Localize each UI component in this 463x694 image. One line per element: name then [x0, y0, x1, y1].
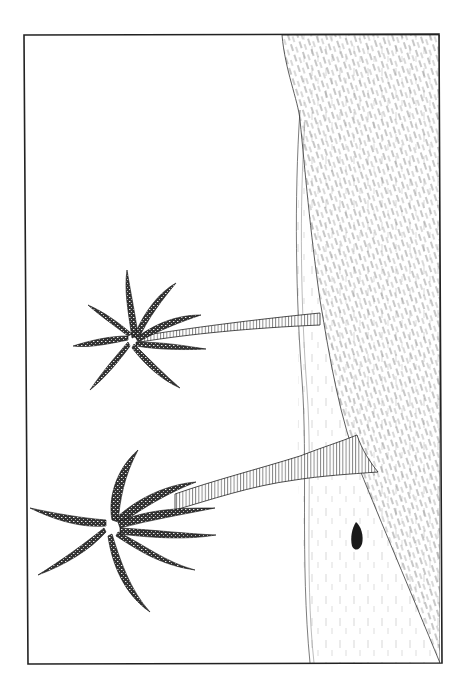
palm-tree-illustration [0, 0, 463, 694]
palm-crown-large [30, 450, 216, 612]
